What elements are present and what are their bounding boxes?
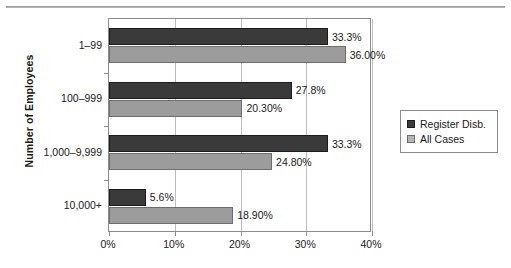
bar-all-cases (109, 153, 272, 170)
bar-value-label: 33.3% (328, 138, 362, 150)
y-axis-tick-labels: 1–99100–9991,000–9,99910,000+ (0, 18, 108, 232)
light-square-swatch (407, 135, 415, 143)
bar-value-label: 33.3% (328, 31, 362, 43)
bar-value-label: 20.30% (242, 102, 282, 114)
bar-register-disb (109, 28, 328, 45)
x-tick-mark (372, 231, 373, 236)
x-tick-label: 40% (360, 238, 381, 250)
x-tick-mark (306, 231, 307, 236)
bar-all-cases (109, 100, 242, 117)
bar-all-cases (109, 46, 346, 63)
bar-register-disb (109, 82, 292, 99)
x-tick-label: 20% (229, 238, 250, 250)
legend-item: All Cases (407, 131, 491, 146)
bar-value-label: 36.00% (346, 49, 386, 61)
legend-item-label: Register Disb. (420, 118, 486, 130)
y-tick-mark (104, 73, 109, 74)
legend-item: Register Disb. (407, 116, 491, 131)
bar-all-cases (109, 207, 233, 224)
x-tick-label: 0% (100, 238, 115, 250)
chart-legend: Register Disb.All Cases (400, 110, 498, 153)
x-tick-mark (109, 231, 110, 236)
bar-register-disb (109, 135, 328, 152)
bar-value-label: 5.6% (146, 191, 174, 203)
x-axis-tick-labels: 0%10%20%30%40% (108, 238, 371, 254)
bar-value-label: 27.8% (292, 84, 326, 96)
y-axis-tick-label: 1–99 (0, 39, 108, 51)
y-axis-tick-label: 10,000+ (0, 199, 108, 211)
figure-top-divider (6, 6, 505, 8)
dark-square-swatch (407, 120, 415, 128)
x-tick-mark (175, 231, 176, 236)
bar-register-disb (109, 189, 146, 206)
y-tick-mark (104, 126, 109, 127)
plot-area: 33.3%36.00%27.8%20.30%33.3%24.80%5.6%18.… (108, 18, 371, 232)
y-axis-tick-label: 1,000–9,999 (0, 146, 108, 158)
x-tick-label: 10% (163, 238, 184, 250)
legend-item-label: All Cases (420, 133, 464, 145)
y-axis-tick-label: 100–999 (0, 92, 108, 104)
x-tick-label: 30% (295, 238, 316, 250)
chart-figure: Number of Employees 1–99100–9991,000–9,9… (0, 0, 511, 268)
y-tick-mark (104, 180, 109, 181)
bar-value-label: 18.90% (233, 209, 273, 221)
x-tick-mark (241, 231, 242, 236)
bar-value-label: 24.80% (272, 156, 312, 168)
